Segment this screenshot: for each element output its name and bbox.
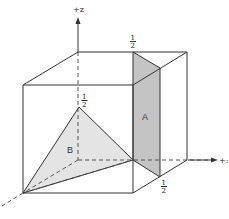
y-axis-arrow-icon	[211, 158, 218, 163]
z-half-denominator: 2	[82, 101, 86, 109]
x-axis-extension	[2, 193, 23, 206]
z-axis-label: +z	[73, 5, 84, 14]
bottom-half-denominator: 2	[162, 187, 166, 195]
cube-diagram: +z +: 1 2 1 2 1 2 A B	[0, 0, 229, 219]
plane-b-label: B	[67, 145, 73, 155]
y-axis-label: +:	[219, 156, 228, 165]
bottom-half-numerator: 1	[162, 179, 166, 187]
plane-a-label: A	[142, 112, 148, 122]
z-half-numerator: 1	[82, 93, 86, 101]
z-axis-arrow-icon	[76, 17, 81, 24]
top-half-denominator: 2	[131, 42, 135, 50]
top-left-edge	[23, 52, 78, 85]
top-half-numerator: 1	[131, 34, 135, 42]
